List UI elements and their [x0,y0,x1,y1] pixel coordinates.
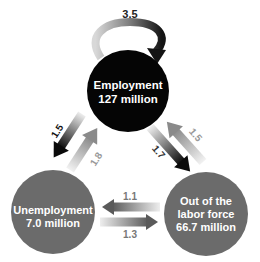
flow-label-unemp-to-out: 1.3 [123,229,137,240]
flow-label-unemp-to-emp: 1.8 [88,150,105,168]
flow-label-out-to-unemp: 1.1 [123,191,137,202]
arrowhead-icon [146,214,158,230]
unemployment-title: Unemployment [13,204,93,216]
out-of-labor-force-title-line2: labor force [178,208,235,220]
flow-unemployment-to-out [100,214,158,230]
out-of-labor-force-value: 66.7 million [176,221,236,233]
arrow-shaft [100,218,148,227]
node-unemployment: Unemployment 7.0 million [11,170,95,254]
flow-label-loop: 3.5 [122,8,137,20]
employment-circle [87,50,169,132]
labor-flow-diagram: 3.5 Employment 127 million 1.5 1.8 1.7 1… [0,0,260,262]
node-out-of-labor-force: Out of the labor force 66.7 million [164,172,248,256]
node-employment: Employment 127 million [87,50,169,132]
employment-value: 127 million [98,93,157,105]
out-of-labor-force-title-line1: Out of the [180,195,232,207]
arrow-shaft [66,136,94,173]
employment-title: Employment [93,79,162,91]
unemployment-value: 7.0 million [26,217,80,229]
arrow-shaft [112,203,160,212]
arrowhead-icon [102,199,114,215]
